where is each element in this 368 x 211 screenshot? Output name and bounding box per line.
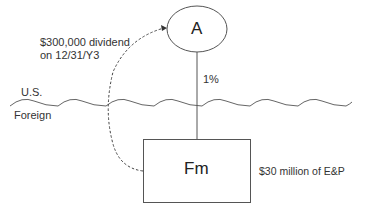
node-fm-label: Fm [184, 159, 209, 179]
ownership-percent-label: 1% [203, 73, 219, 86]
node-a-label: A [191, 19, 202, 39]
us-label: U.S. [21, 86, 42, 99]
dividend-label-line1: $300,000 dividend [40, 36, 130, 49]
foreign-label: Foreign [14, 109, 51, 122]
fm-ep-note: $30 million of E&P [259, 165, 345, 178]
arrowhead-icon [161, 25, 167, 31]
us-foreign-border-line [10, 99, 352, 106]
dividend-label-line2: on 12/31/Y3 [40, 49, 99, 62]
diagram-canvas [0, 0, 368, 211]
